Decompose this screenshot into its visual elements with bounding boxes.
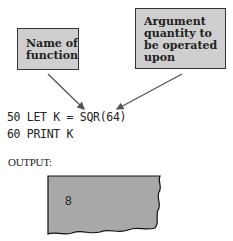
function-name-callout: Name of function bbox=[17, 28, 79, 70]
output-value: 8 bbox=[65, 194, 72, 208]
arrow-function-name bbox=[48, 74, 84, 109]
code-line-60: 60 PRINT K bbox=[7, 127, 73, 141]
arrow-argument bbox=[117, 74, 182, 109]
argument-text: Argument quantity to be operated upon bbox=[144, 15, 217, 64]
output-label: OUTPUT: bbox=[8, 156, 52, 168]
function-name-text: Name of function bbox=[26, 37, 78, 62]
code-line-50: 50 LET K = SQR(64) bbox=[7, 110, 126, 124]
argument-callout: Argument quantity to be operated upon bbox=[135, 8, 226, 69]
